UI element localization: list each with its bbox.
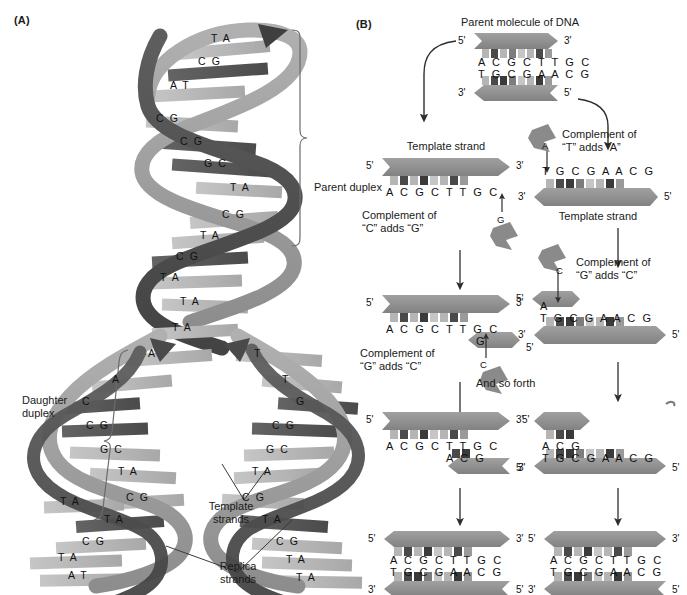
base-pair: T A bbox=[252, 466, 272, 477]
parent-top-sequence: A C G C T T G C bbox=[478, 56, 591, 68]
base-pair: C G bbox=[82, 536, 105, 547]
row5-right-bottom-left-end: 3' bbox=[528, 584, 535, 595]
replica-strands-label-line2: strands bbox=[203, 573, 273, 586]
row3-left-new-strand-end: 5' bbox=[526, 342, 533, 353]
template-strands-label-line2: strands bbox=[196, 513, 266, 526]
row3-left-end-5: 5' bbox=[366, 297, 373, 308]
row5-left-top-sequence: A C G C T T G C bbox=[390, 554, 503, 566]
base-pair: T A bbox=[118, 466, 138, 477]
row3-right-template-sequence: T G C G A A C G bbox=[540, 312, 653, 324]
base-pair: T A bbox=[286, 554, 306, 565]
row3-right-incoming-nucleotide: C bbox=[556, 266, 563, 276]
row3-right-end-3: 3' bbox=[518, 329, 525, 340]
row2-left-heading: Template strand bbox=[376, 140, 516, 153]
row5-left-bottom-right-end: 5' bbox=[516, 584, 523, 595]
unpaired-base: C bbox=[82, 396, 91, 407]
row3-right-caption-line2: “G” adds “C” bbox=[576, 269, 637, 282]
row2-left-nucleotide-blob bbox=[490, 222, 518, 250]
base-pair: C G bbox=[276, 536, 299, 547]
panel-a: (A) bbox=[0, 0, 350, 595]
base-pair: C G bbox=[198, 56, 221, 67]
row2-right-caption-line2: “T” adds “A” bbox=[562, 141, 621, 154]
base-pair: C G bbox=[86, 420, 109, 431]
base-pair: G C bbox=[100, 444, 123, 455]
row5-right-top-right-end: 3' bbox=[672, 533, 679, 544]
row3-left-caption-line1: Complement of bbox=[360, 347, 435, 360]
base-pair: C G bbox=[176, 251, 199, 262]
row4-right-template-sequence: T G C G A A C G bbox=[542, 452, 655, 464]
row2-right-heading: Template strand bbox=[528, 210, 668, 223]
base-pair: T A bbox=[180, 296, 200, 307]
row5-right-bottom-sequence: T G C G A A C G bbox=[550, 566, 663, 578]
parent-top-left-end: 5' bbox=[458, 35, 465, 46]
row5-left-top-left-end: 5' bbox=[368, 533, 375, 544]
row2-left-template-sequence: A C G C T T G C bbox=[386, 186, 499, 198]
row5-left-top-right-end: 3' bbox=[516, 533, 523, 544]
base-pair: A T bbox=[68, 570, 88, 581]
parent-top-right-end: 3' bbox=[564, 35, 571, 46]
row4-left-template-sequence: A C G C T T G C bbox=[386, 440, 499, 452]
base-pair: T A bbox=[160, 272, 180, 283]
panel-b: (B) Parent molecule of DNA bbox=[350, 0, 687, 595]
split-arrow-left bbox=[424, 41, 456, 118]
parent-bottom-right-end: 5' bbox=[564, 87, 571, 98]
row5-left-bottom-sequence: T G C G A A C G bbox=[390, 566, 503, 578]
row2-left-template-glyph bbox=[382, 158, 510, 185]
row4-left-new-sequence: A C G bbox=[446, 452, 486, 464]
replica-strands-label-line1: Replica bbox=[203, 560, 273, 573]
base-pair: T A bbox=[104, 514, 124, 525]
row3-right-new-sequence: A bbox=[540, 300, 549, 312]
row2-left-caption-line2: “C” adds “G” bbox=[362, 222, 423, 235]
parent-bottom-sequence: T G C G A A C G bbox=[478, 68, 591, 80]
and-so-forth-label: And so forth bbox=[476, 377, 535, 390]
template-strands-label-line1: Template bbox=[196, 500, 266, 513]
row2-left-caption-line1: Complement of bbox=[362, 209, 437, 222]
base-pair: T A bbox=[200, 230, 220, 241]
row3-left-caption-line2: “G” adds “C” bbox=[360, 360, 421, 373]
base-pair: T A bbox=[296, 572, 316, 583]
row5-left-bottom-left-end: 3' bbox=[368, 584, 375, 595]
row2-right-template-glyph bbox=[534, 179, 658, 206]
base-pair: C G bbox=[222, 209, 245, 220]
base-pair: T A bbox=[230, 182, 250, 193]
unpaired-base: A bbox=[148, 348, 157, 359]
row4-right-end-3: 3' bbox=[518, 462, 525, 473]
row3-right-new-strand-end: 5' bbox=[516, 293, 523, 304]
row4-right-end-5: 5' bbox=[522, 414, 529, 425]
row3-left-incoming-nucleotide: C bbox=[480, 360, 487, 370]
unpaired-base: G bbox=[296, 396, 306, 407]
row2-right-template-sequence: T G C G A A C G bbox=[542, 165, 655, 177]
row3-right-end-5: 5' bbox=[672, 329, 679, 340]
base-pair: C G bbox=[180, 136, 203, 147]
row2-left-end-3: 3' bbox=[516, 160, 523, 171]
base-pair: T A bbox=[211, 33, 231, 44]
row5-right-top-sequence: A C G C T T G C bbox=[550, 554, 663, 566]
base-pair: C G bbox=[126, 492, 149, 503]
row2-right-end-5: 5' bbox=[664, 191, 671, 202]
row3-left-new-sequence: G bbox=[476, 335, 487, 347]
unpaired-base: A bbox=[112, 374, 121, 385]
row2-left-incoming-nucleotide: G bbox=[497, 215, 504, 225]
row2-left-end-5: 5' bbox=[366, 160, 373, 171]
unpaired-base: T bbox=[282, 374, 290, 385]
row4-right-end-5-right: 5' bbox=[672, 462, 679, 473]
unpaired-base: T bbox=[254, 348, 262, 359]
parent-bottom-left-end: 3' bbox=[458, 87, 465, 98]
row5-right-bottom-right-end: 5' bbox=[672, 584, 679, 595]
base-pair: G C bbox=[204, 158, 227, 169]
daughter-duplex-label-line2: duplex bbox=[22, 407, 54, 420]
daughter-duplex-label-line1: Daughter bbox=[22, 394, 67, 407]
row5-right-top-left-end: 5' bbox=[528, 533, 535, 544]
base-pair: C G bbox=[156, 113, 179, 124]
base-pair: A T bbox=[170, 80, 190, 91]
base-pair: T A bbox=[58, 552, 78, 563]
row3-right-caption-line1: Complement of bbox=[576, 256, 651, 269]
base-pair: T A bbox=[172, 322, 192, 333]
row2-right-caption-line1: Complement of bbox=[562, 128, 637, 141]
row3-left-template-sequence: A C G C T T G C bbox=[386, 323, 499, 335]
row2-right-incoming-nucleotide: A bbox=[542, 141, 548, 151]
row4-right-new-sequence: A C G bbox=[542, 440, 582, 452]
row4-left-end-5: 5' bbox=[366, 414, 373, 425]
row2-right-end-3: 3' bbox=[518, 191, 525, 202]
base-pair: G C bbox=[266, 444, 289, 455]
